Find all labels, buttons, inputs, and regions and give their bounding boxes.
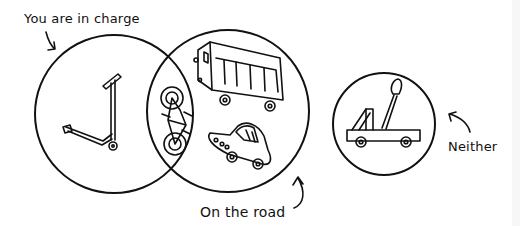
venn-diagram <box>0 0 520 226</box>
label-neither: Neither <box>448 139 497 154</box>
label-on-the-road: On the road <box>200 204 285 220</box>
arrow-neither-icon <box>449 112 470 132</box>
arrow-you-are-in-charge-icon <box>46 32 55 50</box>
arrow-on-the-road-icon <box>293 177 303 208</box>
circle-on-the-road <box>147 30 309 192</box>
car-icon <box>209 123 271 169</box>
label-you-are-in-charge: You are in charge <box>24 11 140 26</box>
scooter-icon <box>63 74 121 150</box>
bus-icon <box>194 42 283 111</box>
catapult-icon <box>347 79 420 147</box>
